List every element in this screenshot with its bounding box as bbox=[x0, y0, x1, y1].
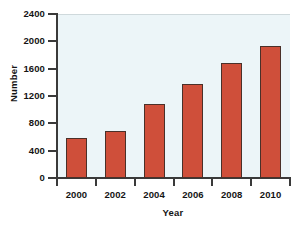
bar-2000 bbox=[66, 138, 87, 178]
x-tick-label: 2004 bbox=[132, 189, 176, 200]
x-tick-label: 2010 bbox=[249, 189, 293, 200]
y-tick-mark bbox=[48, 13, 56, 15]
y-tick-mark bbox=[48, 177, 56, 179]
bar-2006 bbox=[182, 84, 203, 178]
y-tick-mark bbox=[48, 68, 56, 70]
x-tick-mark bbox=[56, 179, 58, 186]
y-axis-title: Number bbox=[8, 44, 19, 124]
y-tick-mark bbox=[48, 122, 56, 124]
y-tick-label: 0 bbox=[1, 172, 45, 183]
x-tick-mark bbox=[250, 179, 252, 186]
bar-2004 bbox=[144, 104, 165, 178]
x-tick-label: 2000 bbox=[54, 189, 98, 200]
x-tick-label: 2002 bbox=[93, 189, 137, 200]
y-tick-mark bbox=[48, 150, 56, 152]
y-tick-mark bbox=[48, 95, 56, 97]
x-tick-mark bbox=[134, 179, 136, 186]
x-tick-mark bbox=[211, 179, 213, 186]
y-axis-line bbox=[56, 13, 58, 179]
bar-2008 bbox=[221, 63, 242, 178]
x-tick-mark bbox=[95, 179, 97, 186]
x-tick-label: 2008 bbox=[210, 189, 254, 200]
plot-area bbox=[57, 14, 290, 179]
x-tick-mark bbox=[289, 179, 291, 186]
bar-chart: 04008001200160020002400 2000200220042006… bbox=[0, 0, 308, 228]
x-tick-label: 2006 bbox=[171, 189, 215, 200]
bar-2002 bbox=[105, 131, 126, 178]
y-tick-mark bbox=[48, 40, 56, 42]
y-tick-label: 2400 bbox=[1, 8, 45, 19]
x-tick-mark bbox=[173, 179, 175, 186]
y-tick-label: 400 bbox=[1, 145, 45, 156]
x-axis-title: Year bbox=[55, 207, 291, 218]
bar-2010 bbox=[260, 46, 281, 178]
